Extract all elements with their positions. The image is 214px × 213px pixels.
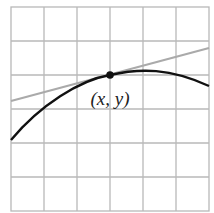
point-marker (106, 71, 114, 79)
point-label: (x, y) (90, 88, 129, 110)
tangent-line-diagram: (x, y) (0, 0, 214, 213)
